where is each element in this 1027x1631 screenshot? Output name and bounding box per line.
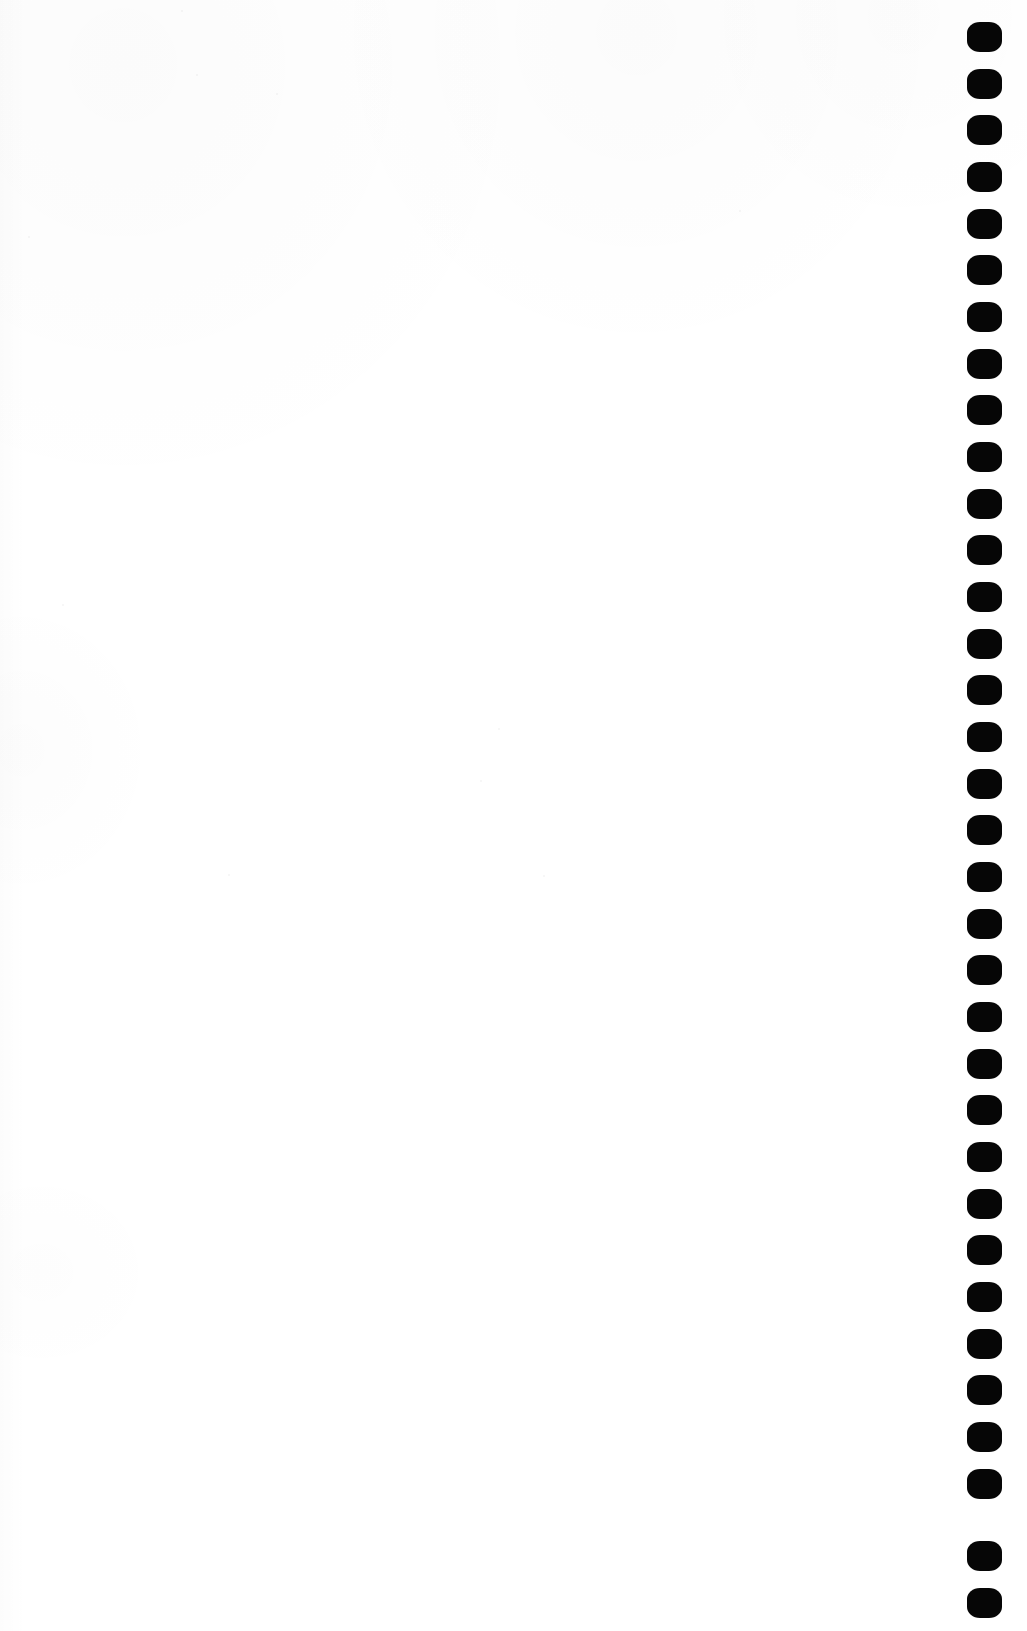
binding-hole [967, 1588, 1002, 1618]
binding-hole [967, 722, 1002, 752]
binding-hole [967, 629, 1002, 659]
binding-hole [967, 489, 1002, 519]
binding-hole [967, 1235, 1002, 1265]
binding-hole [967, 255, 1002, 285]
binding-hole [967, 1282, 1002, 1312]
scanned-page [0, 0, 1027, 1631]
binding-hole [967, 209, 1002, 239]
binding-hole [967, 1329, 1002, 1359]
binding-hole [967, 115, 1002, 145]
binding-hole [967, 1422, 1002, 1452]
binding-hole [967, 69, 1002, 99]
paper-speck [480, 780, 482, 782]
binding-hole [967, 675, 1002, 705]
binding-hole [967, 769, 1002, 799]
binding-hole [967, 1142, 1002, 1172]
binding-hole [967, 535, 1002, 565]
binding-hole [967, 162, 1002, 192]
binding-hole-column [0, 0, 1027, 1631]
paper-speck [62, 604, 64, 606]
binding-hole [967, 1375, 1002, 1405]
paper-speck [276, 93, 278, 95]
binding-hole [967, 1189, 1002, 1219]
paper-speck [498, 728, 500, 730]
binding-hole [967, 1002, 1002, 1032]
paper-speck [28, 236, 30, 238]
paper-speck [196, 74, 198, 76]
binding-hole [967, 395, 1002, 425]
binding-hole [967, 815, 1002, 845]
binding-hole [967, 1095, 1002, 1125]
paper-speck [228, 874, 230, 876]
paper-speck [739, 210, 741, 212]
binding-hole [967, 862, 1002, 892]
paper-speck [181, 10, 183, 12]
binding-hole [967, 1541, 1002, 1571]
binding-hole [967, 349, 1002, 379]
paper-speck [543, 875, 545, 877]
binding-hole [967, 1469, 1002, 1499]
binding-hole [967, 955, 1002, 985]
binding-hole [967, 909, 1002, 939]
binding-hole [967, 302, 1002, 332]
binding-hole [967, 1049, 1002, 1079]
binding-hole [967, 22, 1002, 52]
binding-hole [967, 582, 1002, 612]
paper-texture [0, 0, 1027, 1631]
binding-hole [967, 442, 1002, 472]
